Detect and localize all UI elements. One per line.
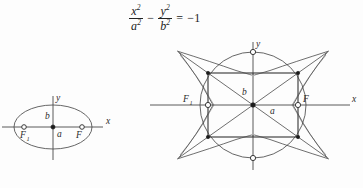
hyperbola-vertex-top-marker xyxy=(250,49,255,54)
ellipse-focus-left-label: F xyxy=(19,130,26,140)
rectangle-corner-bottom-left xyxy=(206,135,209,138)
ellipse-focus-right-label: F xyxy=(75,130,82,140)
hyperbola-label-b: b xyxy=(242,87,247,97)
hyperbola-center-dot xyxy=(251,103,256,108)
rectangle-corner-top-right xyxy=(296,71,299,74)
ellipse-x-axis-label: x xyxy=(105,116,111,126)
math-figure: x2 a2 − y2 b2 = −1 b a F 1 F x y xyxy=(0,0,363,188)
hyperbola-focus-left-marker xyxy=(205,102,210,107)
hyperbola-y-axis-label: y xyxy=(255,39,261,49)
ellipse-focus-right-marker xyxy=(80,125,85,130)
rectangle-corner-top-left xyxy=(206,71,209,74)
ellipse-label-a: a xyxy=(57,129,62,139)
ellipse-label-b: b xyxy=(45,111,50,121)
hyperbola-focus-right-label: F xyxy=(302,94,309,104)
rectangle-corner-bottom-right xyxy=(296,135,299,138)
figure-canvas: b a F 1 F x y xyxy=(0,0,363,188)
ellipse-diagram: b a F 1 F x y xyxy=(2,93,111,160)
ellipse-focus-left-subscript: 1 xyxy=(27,135,30,142)
hyperbola-vertex-bottom-marker xyxy=(250,155,255,160)
hyperbola-focus-right-marker xyxy=(295,102,300,107)
ellipse-y-axis-label: y xyxy=(55,93,61,103)
hyperbola-label-a: a xyxy=(270,106,275,116)
ellipse-center-dot xyxy=(51,125,55,129)
hyperbola-x-axis-label: x xyxy=(351,94,357,104)
hyperbola-diagram: b a F 1 F x y xyxy=(150,39,357,170)
hyperbola-focus-left-subscript: 1 xyxy=(190,99,193,106)
hyperbola-focus-left-label: F xyxy=(182,94,189,104)
ellipse-focus-left-marker xyxy=(22,125,27,130)
